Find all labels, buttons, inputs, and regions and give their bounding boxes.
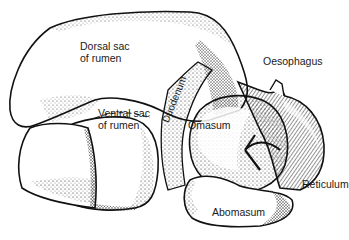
label-oesophagus: Oesophagus — [263, 55, 323, 67]
caudal-lobe-shape — [19, 124, 96, 209]
label-dorsal-sac: Dorsal sac of rumen — [80, 40, 130, 64]
label-ventral-sac: Ventral sac of rumen — [98, 107, 150, 131]
label-abomasum: Abomasum — [212, 206, 265, 218]
label-omasum: Omasum — [188, 119, 231, 131]
label-reticulum: Reticulum — [302, 178, 349, 190]
